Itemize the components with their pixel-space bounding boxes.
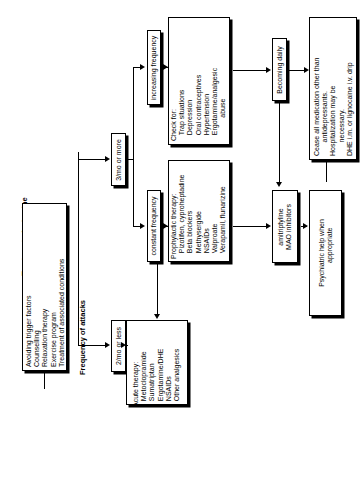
connector-check-to-becoming-daily (233, 70, 266, 71)
arrowhead-to-prophylactic (163, 223, 168, 229)
arrowhead-becoming-daily-down (276, 182, 282, 187)
connector-spine-to-3mo-h (78, 159, 105, 160)
bus-3mo-fanout (133, 67, 134, 226)
amitriptyline-text: amitriptyline MAO inhibitors (277, 185, 293, 269)
arrowhead-to-becoming-daily (266, 67, 271, 73)
node-prophylactic-therapy: Prophylactic therapy: Pizotifen, cyprohe… (168, 160, 230, 262)
psychiatric-help-text: Psychiatric help when appropriate (317, 195, 333, 311)
arrowhead-to-check (163, 64, 168, 70)
node-check-for: Check for: Trap situations Depression Or… (168, 17, 230, 145)
connector-becoming-daily-to-cease (289, 70, 305, 71)
node-becoming-daily: Becoming daily (272, 38, 287, 101)
node-acute-therapy: Acute therapy: Metoclopramide Sumatripta… (126, 320, 188, 405)
arrowhead-to-increasing (140, 64, 145, 70)
node-3mo-or-more-label: 3/mo or more (114, 130, 122, 190)
acute-therapy-text: Acute therapy: Metoclopramide Sumatripta… (132, 319, 181, 407)
general-measures-text: Avoiding trigger factors Counselling Rel… (24, 207, 65, 367)
arrowhead-to-acute (121, 342, 126, 348)
arrowhead-to-cease (304, 67, 309, 73)
prophylactic-therapy-text: Prophylactic therapy: Pizotifen, cyprohe… (170, 163, 227, 259)
arrowhead-to-2mo (105, 342, 110, 348)
node-3mo-or-more: 3/mo or more (111, 133, 126, 186)
connector-3mo-to-bus (126, 159, 134, 160)
connector-prophylactic-to-amitriptyline (233, 226, 266, 227)
connector-spine-to-2mo-h (78, 345, 105, 346)
node-cease-medication: Cease all medication other than antidepr… (309, 17, 357, 160)
arrowhead-to-amitriptyline (266, 223, 271, 229)
node-psychiatric-help: Psychiatric help when appropriate (309, 190, 342, 316)
node-increasing-frequency-label: increasing frequency (150, 25, 158, 111)
arrowhead-prophylactic-to-acute (154, 314, 160, 319)
connector-cease-to-psychiatric (326, 160, 327, 182)
check-for-text: Check for: Trap situations Depression Or… (170, 21, 227, 141)
arrowhead-to-3mo (105, 156, 110, 162)
node-constant-frequency: constant frequency (147, 190, 161, 262)
node-general-measures: Avoiding trigger factors Counselling Rel… (22, 203, 67, 371)
migraine-treatment-flowchart: Treatment of migraine Avoiding trigger f… (0, 0, 361, 477)
spine-vertical (78, 152, 79, 338)
arrowhead-to-constant (140, 223, 145, 229)
arrowhead-to-psychiatric (303, 223, 308, 229)
node-becoming-daily-label: Becoming daily (275, 33, 283, 107)
connector-becoming-daily-to-amitriptyline (279, 101, 280, 183)
connector-general-to-decision (44, 371, 45, 389)
cease-medication-text: Cease all medication other than antidepr… (313, 22, 354, 156)
connector-2mo-to-acute (126, 345, 128, 346)
node-amitriptyline: amitriptyline MAO inhibitors (272, 190, 298, 263)
node-constant-frequency-label: constant frequency (150, 185, 158, 267)
node-increasing-frequency: increasing frequency (147, 30, 161, 105)
connector-prophylactic-to-acute (157, 262, 158, 315)
